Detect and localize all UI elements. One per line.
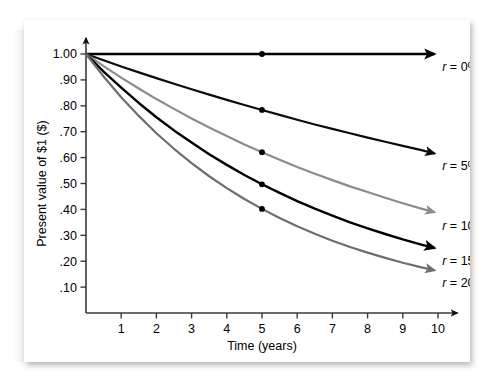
- y-tick-label: .70: [60, 125, 77, 139]
- series-line-5: [86, 54, 434, 153]
- x-tick-label: 10: [431, 322, 445, 336]
- x-tick-label: 2: [153, 322, 160, 336]
- series-line-15: [86, 54, 434, 248]
- x-tick-label: 8: [364, 322, 371, 336]
- series-group: [86, 54, 434, 270]
- x-tick-label: 7: [329, 322, 336, 336]
- y-tick-label: .10: [60, 281, 77, 295]
- data-point-markers: [259, 51, 265, 212]
- y-tick-label: .90: [60, 73, 77, 87]
- screenshot-root: .10.20.30.40.50.60.70.80.901.00123456789…: [0, 0, 493, 381]
- y-tick-label: .60: [60, 151, 77, 165]
- legend-label-5: r = 5%: [442, 159, 470, 173]
- x-tick-label: 6: [294, 322, 301, 336]
- legend-label-20: r = 20%: [442, 276, 470, 290]
- y-tick-label: .40: [60, 203, 77, 217]
- data-point: [259, 51, 265, 57]
- x-axis-title: Time (years): [227, 339, 297, 353]
- y-tick-label: 1.00: [53, 47, 77, 61]
- x-axis-ticks: 12345678910: [118, 313, 445, 336]
- x-tick-label: 1: [118, 322, 125, 336]
- x-tick-label: 5: [259, 322, 266, 336]
- y-tick-label: .50: [60, 177, 77, 191]
- y-tick-label: .80: [60, 99, 77, 113]
- x-tick-label: 9: [399, 322, 406, 336]
- data-point: [259, 206, 265, 212]
- y-axis-ticks: .10.20.30.40.50.60.70.80.901.00: [53, 47, 86, 294]
- y-tick-label: .20: [60, 255, 77, 269]
- series-line-10: [86, 54, 434, 212]
- y-tick-label: .30: [60, 229, 77, 243]
- axes: [86, 38, 457, 313]
- present-value-chart: .10.20.30.40.50.60.70.80.901.00123456789…: [24, 20, 470, 362]
- series-line-20: [86, 54, 434, 270]
- chart-card: .10.20.30.40.50.60.70.80.901.00123456789…: [24, 20, 470, 362]
- legend-label-0: r = 0%: [442, 60, 470, 74]
- legend-label-15: r = 15%: [442, 254, 470, 268]
- data-point: [259, 149, 265, 155]
- data-point: [259, 107, 265, 113]
- legend-label-10: r = 10%: [442, 219, 470, 233]
- y-axis-title: Present value of $1 ($): [35, 120, 49, 246]
- x-tick-label: 3: [188, 322, 195, 336]
- data-point: [259, 181, 265, 187]
- x-tick-label: 4: [223, 322, 230, 336]
- legend: r = 0%r = 5%r = 10%r = 15%r = 20%: [442, 60, 470, 291]
